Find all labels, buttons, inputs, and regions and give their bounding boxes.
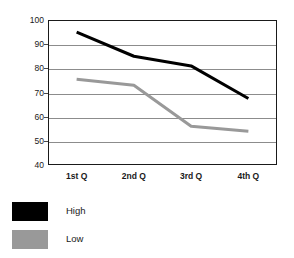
y-axis-tick-mark [44,117,48,118]
y-axis-tick-mark [44,93,48,94]
chart-legend: HighLow [12,200,86,256]
series-line-low [77,79,249,131]
y-axis: 100908070605040 [16,20,44,165]
legend-item[interactable]: High [12,200,86,222]
legend-label: High [66,206,86,216]
legend-swatch-high [12,202,48,221]
line-chart: 100908070605040 1st Q2nd Q3rd Q4th Q Hig… [0,0,294,258]
x-axis-tick-label: 3rd Q [161,172,221,181]
x-axis-tick-label: 1st Q [47,172,107,181]
y-axis-tick-label: 70 [18,88,44,97]
y-axis-tick-mark [44,68,48,69]
y-axis-tick-mark [44,141,48,142]
y-axis-tick-label: 90 [18,40,44,49]
y-axis-tick-mark [44,44,48,45]
x-axis-tick-label: 2nd Q [104,172,164,181]
y-axis-tick-label: 60 [18,112,44,121]
legend-item[interactable]: Low [12,228,86,250]
y-axis-tick-label: 50 [18,137,44,146]
legend-swatch-low [12,230,48,249]
y-axis-tick-label: 100 [18,16,44,25]
x-axis-tick-label: 4th Q [218,172,278,181]
data-series-layer [48,20,277,165]
y-axis-tick-label: 80 [18,64,44,73]
series-line-high [77,32,249,98]
legend-label: Low [66,234,83,244]
y-axis-tick-label: 40 [18,161,44,170]
